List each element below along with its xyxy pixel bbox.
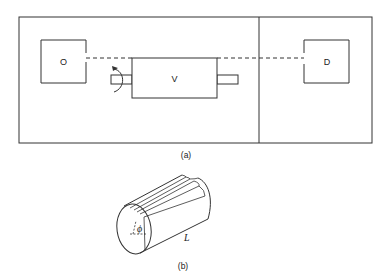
groove-edge (144, 217, 145, 250)
length-label: L (183, 232, 190, 243)
right-shaft (217, 75, 238, 84)
source-label: O (60, 57, 67, 67)
rotor-label: V (171, 74, 177, 84)
cylinder-top-edge (124, 175, 182, 206)
diagram: O V D (a) (0, 0, 388, 275)
figure-a: O V D (a) (19, 17, 372, 160)
grooved-cylinder (114, 175, 211, 256)
groove-line (130, 177, 186, 208)
figure-b: ϕ L (b) (114, 175, 211, 271)
rotor-box: V (132, 58, 217, 98)
left-shaft (111, 75, 132, 84)
detector-label: D (324, 57, 331, 67)
angle-label: ϕ (137, 223, 142, 234)
source-box: O (41, 40, 86, 83)
groove-line (137, 181, 194, 212)
detector-box: D (304, 40, 349, 83)
caption-b: (b) (178, 261, 189, 271)
caption-a: (a) (181, 150, 192, 160)
cylinder-back-edge (198, 178, 210, 219)
angle-line (133, 221, 136, 234)
